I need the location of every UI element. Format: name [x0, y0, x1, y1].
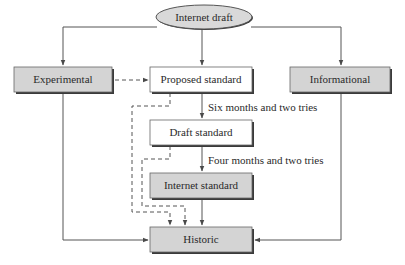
internet-draft-label: Internet draft	[175, 11, 233, 23]
draft-standard-label: Draft standard	[169, 126, 233, 138]
historic-label: Historic	[183, 233, 219, 245]
proposed-standard-label: Proposed standard	[161, 73, 242, 85]
edge-experimental-to-historic	[63, 93, 148, 240]
rfc-maturity-diagram: Internet draft Experimental Proposed sta…	[0, 0, 405, 265]
node-proposed-standard: Proposed standard	[150, 67, 254, 94]
edge-draft-to-experimental	[63, 27, 157, 65]
node-historic: Historic	[150, 227, 254, 254]
edge-informational-to-historic	[255, 93, 341, 240]
node-internet-draft: Internet draft	[156, 5, 253, 30]
node-draft-standard: Draft standard	[150, 120, 254, 147]
experimental-label: Experimental	[33, 73, 92, 85]
node-internet-standard: Internet standard	[150, 173, 254, 200]
node-informational: Informational	[290, 67, 392, 94]
node-experimental: Experimental	[14, 67, 114, 94]
informational-label: Informational	[310, 73, 370, 85]
dashed-edges	[115, 80, 185, 225]
edge-label-six-months: Six months and two tries	[208, 101, 317, 113]
edge-label-four-months: Four months and two tries	[208, 154, 324, 166]
internet-standard-label: Internet standard	[164, 179, 239, 191]
edge-draft-to-informational	[251, 27, 341, 65]
